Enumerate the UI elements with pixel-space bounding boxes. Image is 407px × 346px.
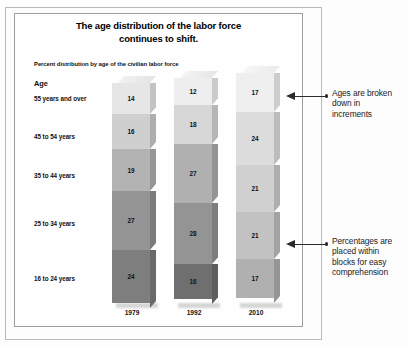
bar-side-face <box>274 212 280 259</box>
bar-shadow-2010 <box>240 303 282 308</box>
year-label-1979: 1979 <box>110 309 154 316</box>
arrow-dot-icon <box>325 242 328 245</box>
segment-value: 17 <box>236 275 274 282</box>
annotation-line: down in <box>332 98 407 108</box>
bar-1979: 14 16 19 27 24 <box>112 83 156 303</box>
segment-value: 27 <box>174 170 212 177</box>
category-label-55-and-over: 55 years and over <box>34 95 110 103</box>
annotation-percentages-in-blocks: Percentages are placed within blocks for… <box>332 236 407 278</box>
bar-side-face <box>274 165 280 212</box>
segment-1979-35-to-44: 19 <box>112 149 150 191</box>
segment-1992-45-to-54: 18 <box>174 105 212 144</box>
chart-title: The age distribution of the labor force … <box>14 20 303 45</box>
bar-side-face <box>274 73 280 112</box>
segment-2010-16-to-24: 17 <box>236 259 274 298</box>
bar-side-face <box>212 105 218 144</box>
segment-value: 16 <box>112 128 150 135</box>
arrow-line <box>294 244 326 245</box>
segment-1992-25-to-34: 28 <box>174 203 212 264</box>
segment-2010-25-to-34: 21 <box>236 212 274 259</box>
bar-shadow-1992 <box>178 303 220 308</box>
segment-value: 12 <box>174 88 212 95</box>
bar-top-face-1992 <box>180 71 218 78</box>
segment-1992-55-and-over: 12 <box>174 78 212 105</box>
chart-title-line-2: continues to shift. <box>14 33 303 46</box>
bar-side-face <box>212 203 218 264</box>
segment-value: 24 <box>236 135 274 142</box>
category-label-16-to-24: 16 to 24 years <box>34 275 110 283</box>
bar-side-face <box>150 149 156 191</box>
annotation-line: increments <box>332 109 407 119</box>
chart-subtitle: Percent distribution by age of the civil… <box>34 61 284 67</box>
annotation-line: blocks for easy <box>332 257 407 267</box>
bar-side-face <box>150 191 156 250</box>
segment-value: 18 <box>174 121 212 128</box>
segment-value: 27 <box>112 217 150 224</box>
segment-value: 19 <box>112 166 150 173</box>
bar-top-face-2010 <box>242 66 280 73</box>
segment-1979-25-to-34: 27 <box>112 191 150 250</box>
bar-top-face-1979 <box>118 76 156 83</box>
annotation-ages-broken-down: Ages are broken down in increments <box>332 88 407 119</box>
segment-2010-55-and-over: 17 <box>236 73 274 112</box>
segment-value: 28 <box>174 230 212 237</box>
bar-side-face <box>150 114 156 149</box>
bar-side-face <box>150 250 156 308</box>
segment-1979-55-and-over: 14 <box>112 83 150 114</box>
segment-1979-16-to-24: 24 <box>112 250 150 303</box>
category-label-35-to-44: 35 to 44 years <box>34 172 110 180</box>
annotation-line: Percentages are <box>332 236 407 246</box>
bar-side-face <box>212 264 218 304</box>
annotation-arrow-percentages <box>286 240 330 249</box>
bar-side-face <box>150 83 156 114</box>
arrow-line <box>294 96 326 97</box>
annotation-line: Ages are broken <box>332 88 407 98</box>
bar-segments-1979: 14 16 19 27 24 <box>112 83 150 303</box>
annotation-line: placed within <box>332 246 407 256</box>
age-axis-header: Age <box>34 79 48 88</box>
annotation-line: comprehension <box>332 267 407 277</box>
arrow-dot-icon <box>325 94 328 97</box>
bar-1992: 12 18 27 28 16 <box>174 78 218 299</box>
category-label-45-to-54: 45 to 54 years <box>34 133 110 141</box>
bar-segments-1992: 12 18 27 28 16 <box>174 78 212 299</box>
segment-value: 16 <box>174 278 212 285</box>
bar-side-face <box>212 78 218 105</box>
chart-figure: The age distribution of the labor force … <box>0 0 407 346</box>
bar-segments-2010: 17 24 21 21 17 <box>236 73 274 298</box>
segment-value: 17 <box>236 89 274 96</box>
segment-value: 24 <box>112 273 150 280</box>
year-label-2010: 2010 <box>234 309 278 316</box>
segment-1992-16-to-24: 16 <box>174 264 212 299</box>
category-label-25-to-34: 25 to 34 years <box>34 220 110 228</box>
segment-value: 14 <box>112 95 150 102</box>
segment-2010-35-to-44: 21 <box>236 165 274 212</box>
segment-value: 21 <box>236 185 274 192</box>
bar-side-face <box>212 144 218 203</box>
chart-title-line-1: The age distribution of the labor force <box>14 20 303 33</box>
segment-2010-45-to-54: 24 <box>236 112 274 165</box>
segment-1992-35-to-44: 27 <box>174 144 212 203</box>
bar-2010: 17 24 21 21 17 <box>236 73 280 298</box>
segment-value: 21 <box>236 232 274 239</box>
annotation-arrow-ages <box>286 92 330 101</box>
segment-1979-45-to-54: 16 <box>112 114 150 149</box>
year-label-1992: 1992 <box>172 309 216 316</box>
bar-side-face <box>274 259 280 303</box>
bar-side-face <box>274 112 280 165</box>
